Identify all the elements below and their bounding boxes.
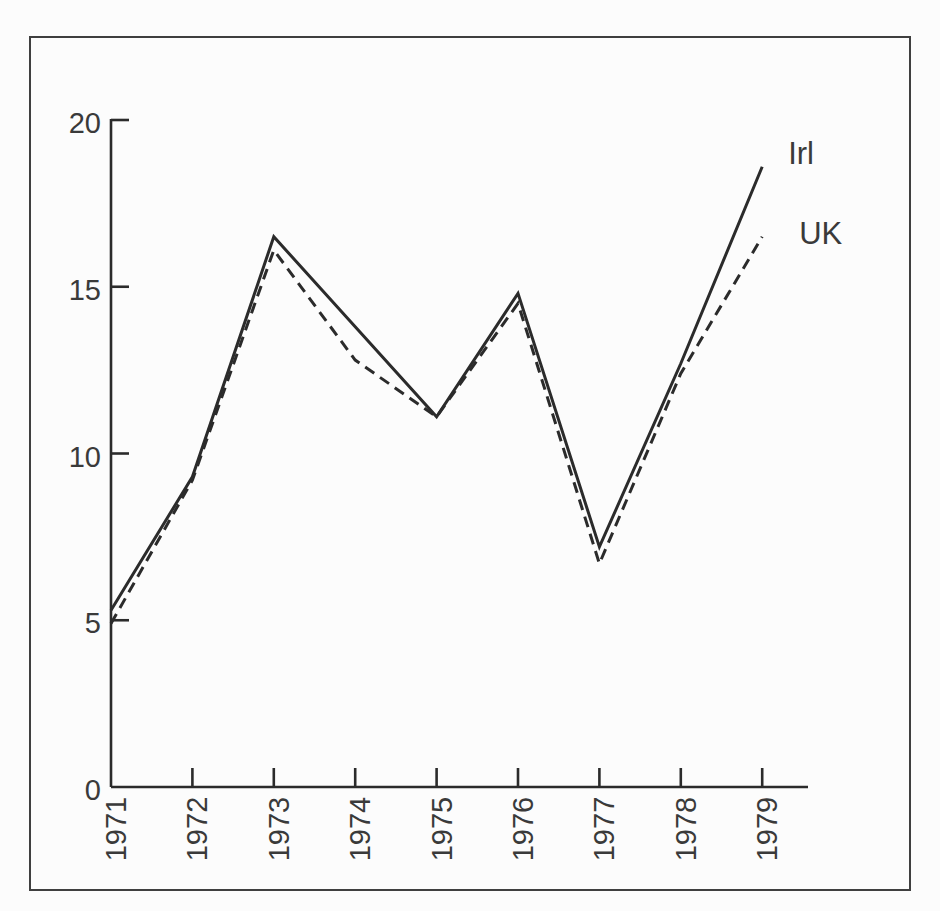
figure-page: 0510152019711972197319741975197619771978… xyxy=(0,0,940,911)
chart-frame xyxy=(30,37,910,890)
x-tick-label: 1975 xyxy=(426,797,458,862)
x-tick-label: 1971 xyxy=(100,797,132,862)
x-tick-label: 1978 xyxy=(670,797,702,862)
y-tick-label: 15 xyxy=(69,274,101,306)
x-tick-label: 1972 xyxy=(181,797,213,862)
line-chart: 0510152019711972197319741975197619771978… xyxy=(0,0,940,911)
y-tick-label: 20 xyxy=(69,107,101,139)
y-tick-label: 10 xyxy=(69,441,101,473)
series-label-uk: UK xyxy=(799,216,842,251)
series-label-irl: Irl xyxy=(788,136,814,171)
uk-line xyxy=(111,237,762,624)
x-tick-label: 1977 xyxy=(588,797,620,862)
y-tick-label: 0 xyxy=(85,774,101,806)
irl-line xyxy=(111,167,762,611)
y-tick-label: 5 xyxy=(85,607,101,639)
x-tick-label: 1979 xyxy=(751,797,783,862)
x-tick-label: 1973 xyxy=(263,797,295,862)
x-tick-label: 1974 xyxy=(344,797,376,862)
x-tick-label: 1976 xyxy=(507,797,539,862)
